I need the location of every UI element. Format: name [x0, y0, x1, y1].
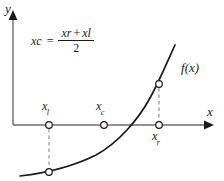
- marker-xr-curve: [156, 81, 163, 88]
- point-label-xc: xc: [96, 100, 105, 116]
- point-label-xc-sub: c: [101, 108, 105, 117]
- x-axis-arrowhead: [204, 121, 214, 130]
- formula-equals-sign: =: [47, 35, 54, 47]
- point-label-xr-sub: r: [157, 138, 160, 147]
- point-label-xr: xr: [152, 130, 161, 146]
- x-axis-label: x: [207, 105, 213, 118]
- marker-xc-axis: [101, 122, 108, 129]
- formula-num-first-sub: r: [67, 26, 72, 40]
- marker-xl-axis: [46, 122, 53, 129]
- formula-lhs-sub: c: [36, 34, 41, 48]
- bisection-formula: xc = xr+xl 2: [31, 27, 94, 54]
- curve-label-fx-args: (x): [185, 60, 199, 75]
- point-label-xl: xl: [42, 100, 50, 116]
- marker-xl-curve: [46, 169, 53, 176]
- formula-numerator: xr+xl: [58, 27, 93, 40]
- formula-num-plus: +: [73, 26, 80, 40]
- formula-lhs: xc: [31, 35, 42, 47]
- curve-label-fx: f(x): [181, 61, 199, 74]
- y-axis-label: y: [5, 2, 11, 15]
- math-figure: y x xl xc xr f(x) xc = xr+xl 2: [0, 0, 224, 181]
- marker-xr-axis: [156, 122, 163, 129]
- point-label-xl-sub: l: [47, 108, 49, 117]
- formula-num-second-sub: l: [88, 26, 91, 40]
- formula-denominator: 2: [73, 41, 79, 54]
- formula-fraction: xr+xl 2: [58, 27, 93, 54]
